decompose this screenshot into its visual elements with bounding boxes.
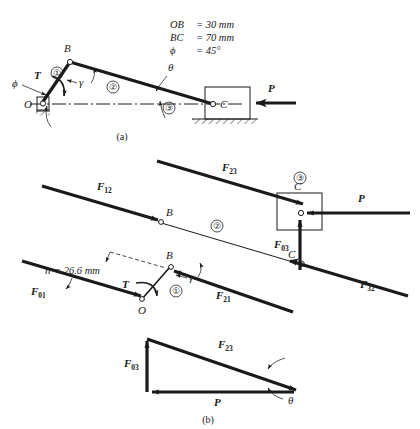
triangle-f03-label: F03: [123, 357, 139, 372]
pin-joint-c-a: [210, 101, 215, 106]
pin-joint-b-a: [67, 59, 72, 64]
pin-joint-b-fbd2: [159, 220, 164, 225]
moment-arm-h-symbol: h: [45, 264, 51, 276]
link-number-2-a-text: ②: [109, 82, 117, 92]
force-f32-label: F32: [359, 278, 375, 293]
parameter-list: OB = 30 mm BC = 70 mm ϕ = 45°: [170, 19, 234, 56]
label-point-c-a: C: [220, 98, 228, 110]
link-number-3-a-text: ③: [165, 103, 173, 113]
label-point-b-a: B: [64, 42, 71, 54]
fbd-link-2: F12 F23 B C ②: [42, 161, 304, 266]
pin-joint-c-fbd3: [298, 210, 303, 215]
triangle-f23-label: F23: [217, 338, 233, 353]
mechanics-figure: OB = 30 mm BC = 70 mm ϕ = 45°: [0, 0, 420, 429]
force-triangle: F03 P F23 θ: [123, 338, 296, 408]
moment-arm-h-value: = 26.6 mm: [54, 265, 100, 276]
part-b-group: F12 F23 B C ② P: [22, 161, 410, 426]
torque-t-a-text: T: [34, 69, 42, 81]
force-p-a-text: P: [268, 82, 275, 94]
force-f12-label: F12: [96, 180, 112, 195]
force-p-a: P: [256, 82, 296, 103]
force-f32-arrow: [290, 261, 408, 296]
fbd-link-1: F01 F21 B O T γ: [22, 249, 293, 316]
fbd-link-3: P F03 C ③ F32: [273, 172, 410, 296]
link-number-2-fbd-text: ②: [213, 221, 221, 231]
angle-gamma-a: γ: [67, 68, 95, 88]
force-f01-label: F01: [30, 285, 46, 300]
pin-joint-o-fbd1: [140, 297, 145, 302]
force-f23-label: F23: [221, 161, 237, 176]
caption-b: (b): [202, 414, 214, 426]
triangle-p-label: P: [214, 396, 221, 408]
link-number-3-fbd-text: ③: [296, 173, 304, 183]
angle-theta-a-text: θ: [168, 61, 174, 73]
param-phi-value: = 45°: [196, 45, 221, 56]
label-point-b-fbd1: B: [166, 249, 173, 261]
angle-gamma-fbd1-text: γ: [189, 271, 194, 283]
ground-surface-a: [192, 119, 258, 124]
param-ob-value: = 30 mm: [196, 19, 234, 30]
force-p-fbd3-label: P: [358, 192, 365, 204]
link-number-2-fbd: ②: [211, 220, 223, 232]
link-number-2-a: ②: [107, 81, 119, 93]
triangle-angle-theta-text: θ: [288, 394, 294, 406]
label-point-b-fbd2: B: [166, 206, 173, 218]
angle-gamma-a-text: γ: [79, 76, 84, 88]
pin-joint-b-fbd1: [169, 265, 174, 270]
caption-a: (a): [116, 131, 127, 143]
angle-phi-a-text: ϕ: [12, 77, 18, 89]
link-number-1-fbd-text: ①: [172, 286, 180, 296]
param-bc-value: = 70 mm: [196, 32, 234, 43]
param-ob-symbol: OB: [170, 19, 185, 30]
part-a-group: OB = 30 mm BC = 70 mm ϕ = 45°: [12, 19, 296, 143]
figure-container: OB = 30 mm BC = 70 mm ϕ = 45°: [0, 0, 420, 429]
label-point-c-fbd2: C: [288, 248, 296, 260]
label-point-o-fbd1: O: [138, 304, 146, 316]
param-bc-symbol: BC: [170, 32, 184, 43]
link-number-1-fbd: ①: [170, 285, 182, 297]
link-number-3-fbd: ③: [294, 172, 306, 184]
label-point-o-a: O: [24, 98, 32, 110]
force-f03-fbd3-label: F03: [273, 238, 289, 253]
torque-t-fbd1-text: T: [122, 278, 130, 290]
angle-theta-a: θ: [156, 61, 174, 91]
param-phi-symbol: ϕ: [170, 45, 176, 56]
